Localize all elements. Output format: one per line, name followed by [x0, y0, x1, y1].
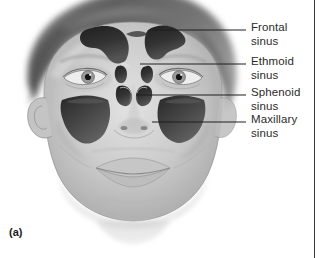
label-maxillary-sinus: Maxillary sinus [251, 113, 297, 140]
eye-highlight-left [89, 74, 91, 76]
label-frontal-sinus-line2: sinus [251, 35, 288, 49]
figure-caption: (a) [9, 226, 22, 238]
label-sphenoid-sinus: Sphenoid sinus [251, 86, 300, 113]
label-ethmoid-sinus-line2: sinus [251, 69, 294, 83]
eye-highlight-right [180, 74, 182, 76]
label-frontal-sinus: Frontal sinus [251, 21, 288, 48]
anatomical-figure: Frontal sinus Ethmoid sinus Sphenoid sin… [0, 0, 322, 258]
label-maxillary-sinus-line2: sinus [251, 127, 297, 141]
label-sphenoid-sinus-line2: sinus [251, 100, 300, 114]
label-maxillary-sinus-line1: Maxillary [251, 113, 297, 125]
label-sphenoid-sinus-line1: Sphenoid [251, 86, 300, 98]
nostril-right [141, 126, 148, 130]
right-edge-rule [314, 0, 315, 258]
nostril-left [121, 126, 128, 130]
label-frontal-sinus-line1: Frontal [251, 21, 288, 33]
label-ethmoid-sinus: Ethmoid sinus [251, 55, 294, 82]
label-ethmoid-sinus-line1: Ethmoid [251, 55, 294, 67]
